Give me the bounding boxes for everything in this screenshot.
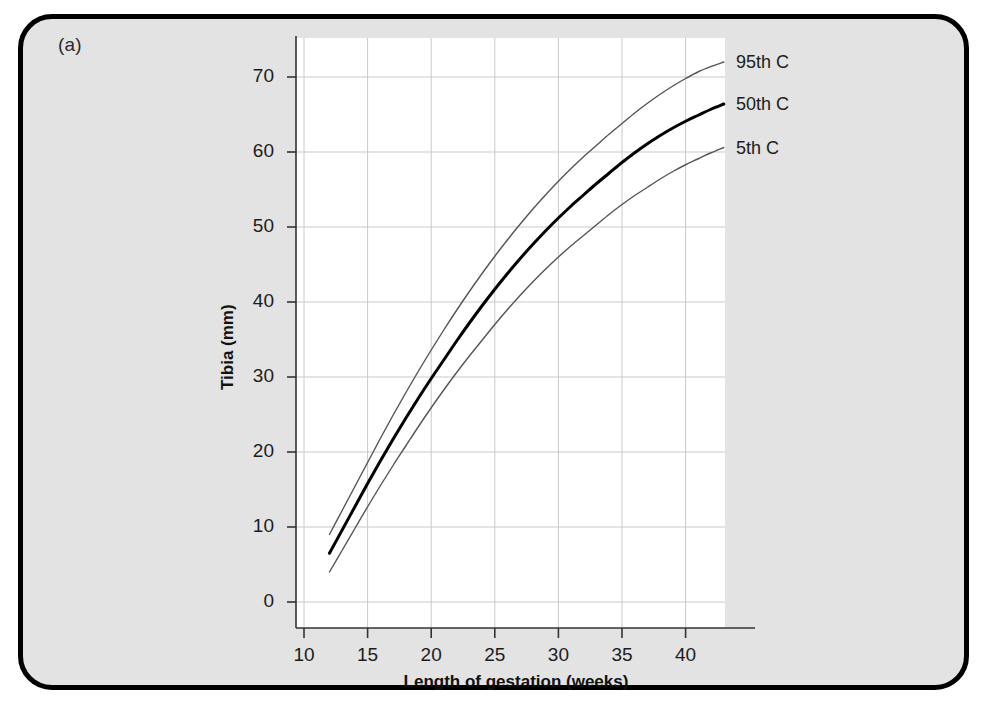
y-tick-label: 0 [218,590,274,612]
chart-plot-canvas [0,0,997,725]
series-label-95th-c: 95th C [736,52,789,73]
x-tick-label: 10 [274,644,334,666]
x-tick-label: 15 [338,644,398,666]
x-tick-label: 20 [401,644,461,666]
x-tick-label: 40 [656,644,716,666]
y-axis-title: Tibia (mm) [218,304,238,390]
series-label-50th-c: 50th C [736,94,789,115]
x-tick-label: 25 [465,644,525,666]
y-tick-label: 60 [218,140,274,162]
y-tick-label: 50 [218,215,274,237]
y-tick-label: 20 [218,440,274,462]
series-label-5th-c: 5th C [736,138,779,159]
plot-background [296,38,725,628]
y-tick-label: 70 [218,65,274,87]
x-axis-title: Length of gestation (weeks) [356,672,676,692]
x-tick-label: 35 [592,644,652,666]
x-tick-label: 30 [528,644,588,666]
y-tick-label: 10 [218,515,274,537]
growth-chart: 10152025303540 010203040506070 95th C50t… [0,0,997,725]
